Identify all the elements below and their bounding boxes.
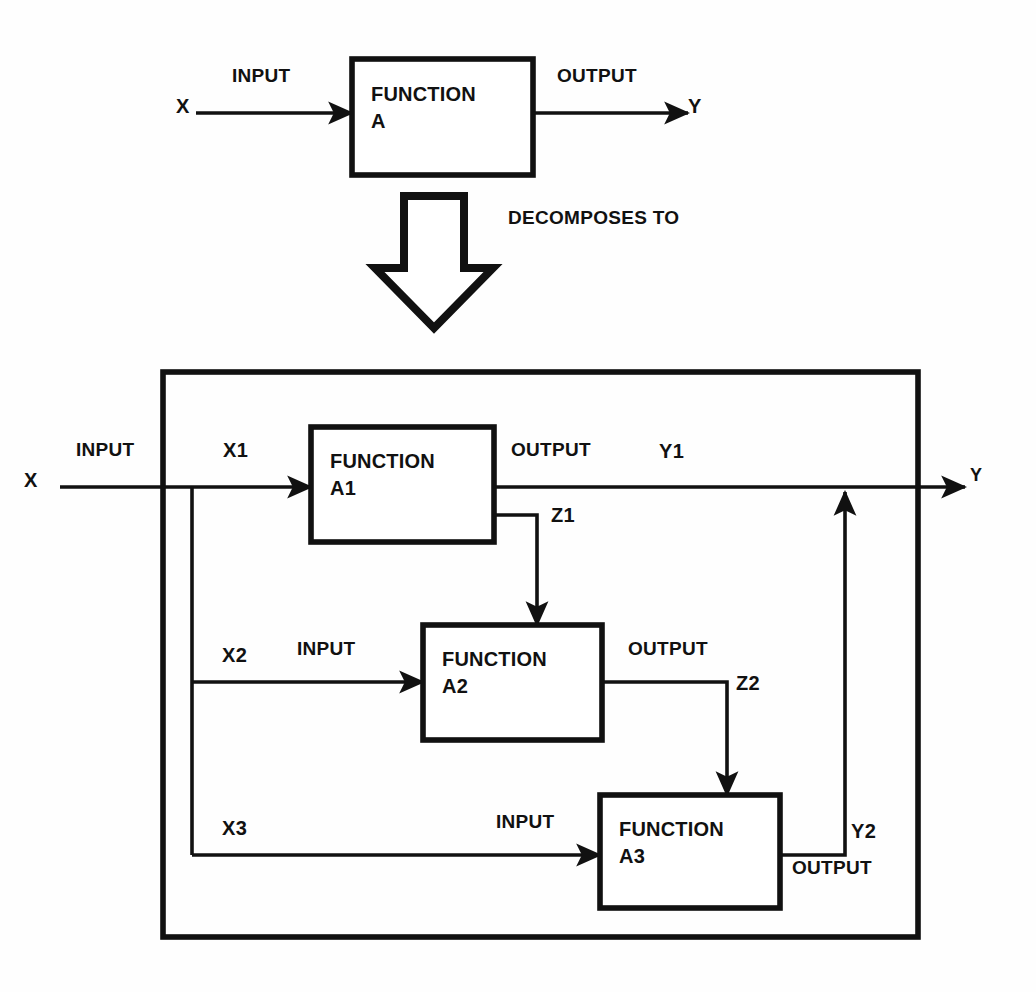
function-a-title-line2: A: [371, 108, 386, 134]
input-signal-label-a2: INPUT: [297, 639, 356, 660]
function-a3-title-line1: FUNCTION: [619, 816, 724, 842]
decomposes-to-label: DECOMPOSES TO: [508, 208, 679, 229]
function-a-title-line1: FUNCTION: [371, 81, 476, 107]
output-var-label-y2: Y2: [851, 821, 876, 843]
signal-path-y2: [780, 492, 845, 855]
branch-label-x3: X3: [222, 818, 247, 840]
signal-label-z1: Z1: [551, 505, 575, 527]
function-a1-title-line1: FUNCTION: [330, 448, 435, 474]
bottom-input-signal-label: INPUT: [76, 440, 135, 461]
function-a2-title-line1: FUNCTION: [442, 646, 547, 672]
branch-label-x2: X2: [222, 645, 247, 667]
functional-decomposition-diagram: X INPUT FUNCTION A OUTPUT Y DECOMPOSES T…: [0, 0, 1036, 992]
output-signal-label-a1: OUTPUT: [511, 440, 591, 461]
top-input-signal-label: INPUT: [232, 66, 291, 87]
decomposes-to-arrow: [375, 196, 493, 328]
diagram-canvas: [0, 0, 1036, 992]
signal-path-z1: [494, 515, 537, 625]
input-signal-label-a3: INPUT: [496, 812, 555, 833]
function-a1-title-line2: A1: [330, 475, 356, 501]
function-a2-title-line2: A2: [442, 673, 468, 699]
output-signal-label-a3: OUTPUT: [792, 858, 872, 879]
top-output-signal-label: OUTPUT: [557, 66, 637, 87]
signal-label-z2: Z2: [736, 673, 760, 695]
output-signal-label-a2: OUTPUT: [628, 639, 708, 660]
bottom-input-var-label: X: [24, 470, 38, 492]
top-input-var-label: X: [176, 96, 190, 118]
output-var-label-y1: Y1: [659, 441, 684, 463]
branch-label-x1: X1: [223, 440, 248, 462]
top-output-var-label: Y: [688, 96, 702, 118]
bottom-output-var-label: Y: [970, 466, 982, 485]
signal-path-z2: [602, 682, 727, 795]
function-a3-title-line2: A3: [619, 843, 645, 869]
